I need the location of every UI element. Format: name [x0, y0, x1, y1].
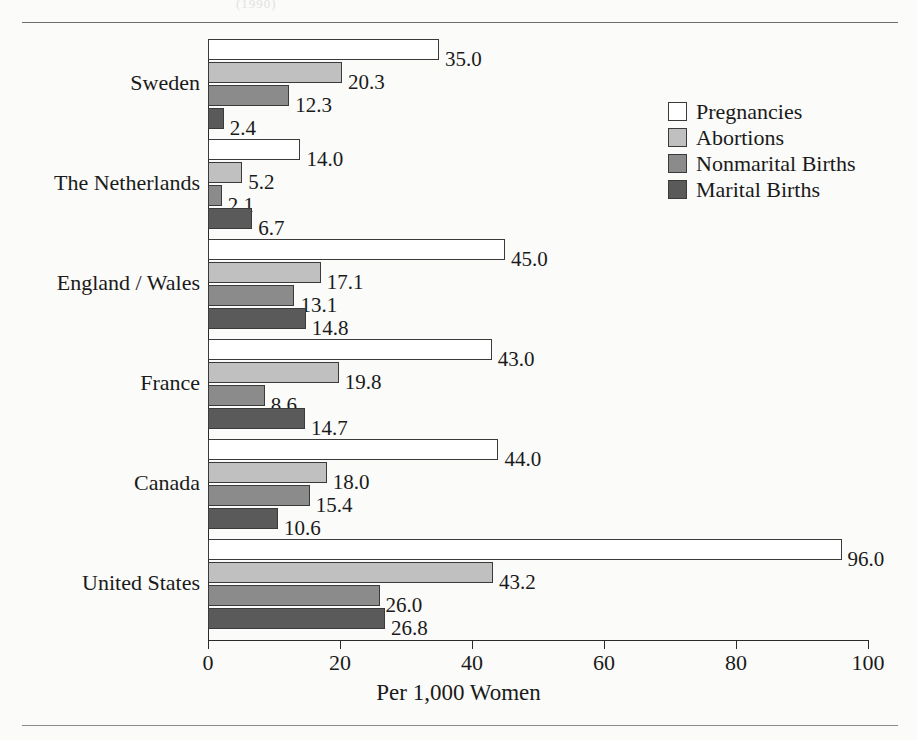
- bar-value-label: 12.3: [295, 95, 332, 116]
- x-axis-line: [208, 640, 868, 641]
- bar-united-states-marital-births: [208, 608, 385, 629]
- category-label-canada: Canada: [134, 472, 200, 494]
- bar-england-wales-abortions: [208, 262, 321, 283]
- bar-sweden-nonmarital-births: [208, 85, 289, 106]
- bar-value-label: 13.1: [300, 295, 337, 316]
- bar-england-wales-pregnancies: [208, 239, 505, 260]
- bar-england-wales-nonmarital-births: [208, 285, 294, 306]
- figure-page: (1990) 020406080100 35.020.312.32.414.05…: [0, 0, 917, 740]
- x-tick-label-80: 80: [725, 652, 747, 674]
- x-tick-label-20: 20: [329, 652, 351, 674]
- bottom-horizontal-rule: [22, 725, 898, 726]
- bar-value-label: 19.8: [345, 372, 382, 393]
- x-tick-80: [736, 640, 737, 649]
- legend-swatch-icon: [668, 128, 687, 147]
- bar-value-label: 43.2: [499, 572, 536, 593]
- chart-legend: PregnanciesAbortionsNonmarital BirthsMar…: [668, 99, 855, 203]
- bar-value-label: 15.4: [316, 495, 353, 516]
- legend-swatch-icon: [668, 180, 687, 199]
- top-horizontal-rule: [22, 22, 898, 23]
- bar-value-label: 18.0: [333, 472, 370, 493]
- bar-value-label: 6.7: [258, 218, 284, 239]
- bar-value-label: 2.4: [230, 118, 256, 139]
- bar-value-label: 45.0: [511, 249, 548, 270]
- bar-united-states-pregnancies: [208, 539, 842, 560]
- legend-pregnancies: Pregnancies: [668, 99, 855, 124]
- bar-united-states-abortions: [208, 562, 493, 583]
- x-tick-0: [208, 640, 209, 649]
- bar-sweden-pregnancies: [208, 39, 439, 60]
- legend-swatch-icon: [668, 102, 687, 121]
- bar-sweden-marital-births: [208, 108, 224, 129]
- bar-value-label: 43.0: [498, 349, 535, 370]
- bar-the-netherlands-pregnancies: [208, 139, 300, 160]
- x-tick-60: [604, 640, 605, 649]
- page-bleed-artifact: (1990): [236, 0, 416, 10]
- bar-value-label: 14.0: [306, 149, 343, 170]
- legend-swatch-icon: [668, 154, 687, 173]
- bar-the-netherlands-nonmarital-births: [208, 185, 222, 206]
- bar-value-label: 17.1: [327, 272, 364, 293]
- legend-marital-births: Marital Births: [668, 177, 855, 202]
- bar-value-label: 44.0: [504, 449, 541, 470]
- bar-canada-marital-births: [208, 508, 278, 529]
- legend-label: Abortions: [696, 125, 784, 150]
- legend-label: Marital Births: [696, 177, 820, 202]
- bar-france-marital-births: [208, 408, 305, 429]
- bar-france-nonmarital-births: [208, 385, 265, 406]
- bar-value-label: 14.8: [312, 318, 349, 339]
- category-label-england-wales: England / Wales: [57, 272, 200, 294]
- category-label-sweden: Sweden: [130, 72, 200, 94]
- category-label-france: France: [140, 372, 200, 394]
- bar-value-label: 14.7: [311, 418, 348, 439]
- bar-england-wales-marital-births: [208, 308, 306, 329]
- bar-france-pregnancies: [208, 339, 492, 360]
- x-tick-label-0: 0: [203, 652, 214, 674]
- legend-nonmarital-births: Nonmarital Births: [668, 151, 855, 176]
- bar-the-netherlands-marital-births: [208, 208, 252, 229]
- x-tick-40: [472, 640, 473, 649]
- x-tick-label-100: 100: [852, 652, 885, 674]
- bar-canada-pregnancies: [208, 439, 498, 460]
- x-tick-20: [340, 640, 341, 649]
- bar-france-abortions: [208, 362, 339, 383]
- x-tick-100: [868, 640, 869, 649]
- x-tick-label-40: 40: [461, 652, 483, 674]
- x-tick-label-60: 60: [593, 652, 615, 674]
- bar-value-label: 35.0: [445, 49, 482, 70]
- x-axis-title: Per 1,000 Women: [0, 680, 917, 706]
- bar-value-label: 96.0: [848, 549, 885, 570]
- legend-label: Pregnancies: [696, 99, 802, 124]
- bar-sweden-abortions: [208, 62, 342, 83]
- bar-value-label: 20.3: [348, 72, 385, 93]
- legend-label: Nonmarital Births: [696, 151, 855, 176]
- bar-value-label: 26.8: [391, 618, 428, 639]
- bar-value-label: 5.2: [248, 172, 274, 193]
- legend-abortions: Abortions: [668, 125, 855, 150]
- bar-value-label: 10.6: [284, 518, 321, 539]
- bar-canada-abortions: [208, 462, 327, 483]
- category-label-the-netherlands: The Netherlands: [54, 172, 200, 194]
- category-label-united-states: United States: [82, 572, 200, 594]
- bar-united-states-nonmarital-births: [208, 585, 380, 606]
- bar-value-label: 26.0: [386, 595, 423, 616]
- bar-canada-nonmarital-births: [208, 485, 310, 506]
- bar-the-netherlands-abortions: [208, 162, 242, 183]
